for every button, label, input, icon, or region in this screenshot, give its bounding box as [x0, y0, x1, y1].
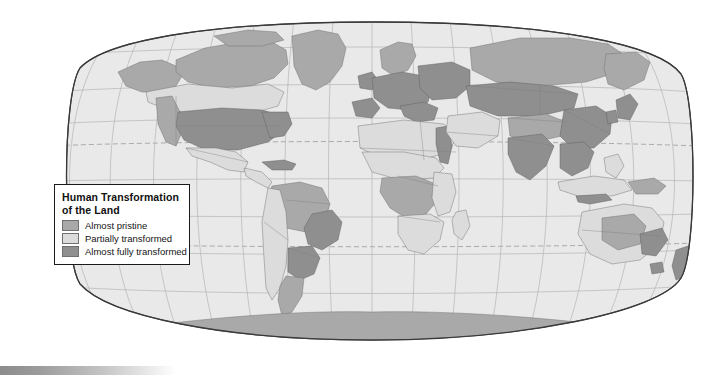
legend-swatch-almost-fully-transformed	[62, 246, 79, 257]
world-map	[0, 0, 708, 352]
legend-title-line-1: Human Transformation	[62, 191, 182, 204]
figure-root: Human Transformation of the Land Almost …	[0, 0, 708, 380]
region-tasmania	[650, 262, 664, 274]
legend-item-partially-transformed: Partially transformed	[62, 233, 182, 244]
legend-item-almost-fully-transformed: Almost fully transformed	[62, 246, 182, 257]
legend-title-line-2: of the Land	[62, 204, 182, 217]
legend-title: Human Transformation of the Land	[62, 191, 182, 217]
legend-swatch-partially-transformed	[62, 233, 79, 244]
bottom-gradient-bar	[0, 366, 176, 375]
legend-swatch-almost-pristine	[62, 220, 79, 231]
map-legend: Human Transformation of the Land Almost …	[54, 184, 190, 265]
world-map-svg	[0, 0, 708, 352]
legend-label-partially-transformed: Partially transformed	[85, 233, 172, 244]
legend-item-almost-pristine: Almost pristine	[62, 220, 182, 231]
legend-label-almost-pristine: Almost pristine	[85, 220, 147, 231]
legend-label-almost-fully-transformed: Almost fully transformed	[85, 246, 187, 257]
region-korea	[606, 110, 618, 124]
